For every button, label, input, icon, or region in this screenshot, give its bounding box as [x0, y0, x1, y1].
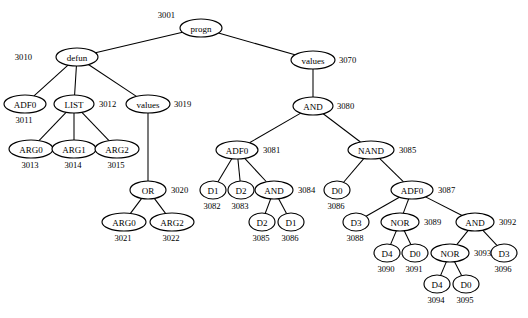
node-label: OR — [142, 186, 155, 196]
node-label: D1 — [286, 218, 297, 228]
tree-node-3091[interactable]: D03091 — [402, 244, 428, 274]
node-id-label: 3086 — [327, 201, 345, 211]
node-label: progn — [191, 24, 212, 34]
node-id-label: 3022 — [162, 233, 179, 243]
node-label: AND — [303, 102, 323, 112]
node-id-label: 3092 — [499, 217, 516, 227]
tree-node-3011[interactable]: ADF03011 — [4, 95, 46, 125]
tree-edge — [404, 231, 411, 245]
tree-node-3084[interactable]: AND3084 — [255, 181, 316, 199]
tree-edge — [34, 65, 68, 96]
node-id-label: 3087 — [438, 185, 456, 195]
node-id-label: 3081 — [263, 145, 280, 155]
tree-edge — [426, 197, 463, 216]
node-label: D1 — [208, 186, 219, 196]
node-label: D4 — [432, 280, 443, 290]
tree-edge — [455, 262, 462, 276]
node-label: NOR — [390, 218, 409, 228]
tree-node-3021[interactable]: ARG03021 — [102, 213, 146, 243]
node-id-label: 3096 — [494, 264, 512, 274]
node-id-label: 3001 — [158, 10, 175, 20]
tree-edge — [154, 198, 165, 213]
node-label: NAND — [358, 146, 384, 156]
node-id-label: 3084 — [298, 185, 316, 195]
tree-node-3001[interactable]: progn3001 — [158, 10, 222, 37]
node-id-label: 3011 — [16, 115, 33, 125]
tree-edge — [403, 199, 408, 213]
node-id-label: 3014 — [64, 160, 82, 170]
node-label: D4 — [382, 249, 393, 259]
tree-node-3013[interactable]: ARG03013 — [9, 140, 53, 170]
tree-node-3014[interactable]: ARG13014 — [52, 140, 96, 170]
tree-edge — [39, 112, 66, 140]
tree-node-3012[interactable]: LIST3012 — [54, 95, 116, 113]
tree-node-3086[interactable]: D03086 — [324, 181, 350, 211]
node-id-label: 3088 — [346, 233, 363, 243]
node-label: NOR — [440, 249, 459, 259]
node-id-label: 3070 — [339, 55, 356, 65]
tree-edge — [380, 158, 404, 181]
node-id-label: 3093 — [474, 248, 491, 258]
node-label: ARG2 — [160, 218, 184, 228]
parse-tree-diagram: progn3001defun3010values3070ADF03011LIST… — [0, 0, 528, 318]
tree-edge — [82, 112, 109, 140]
tree-node-3022[interactable]: ARG23022 — [150, 213, 194, 243]
tree-node-3019[interactable]: values3019 — [126, 95, 191, 113]
node-label: ARG1 — [62, 145, 86, 155]
tree-node-3095[interactable]: D03095 — [453, 275, 479, 305]
tree-edge — [245, 158, 267, 181]
node-label: values — [137, 100, 160, 110]
tree-node-3086b[interactable]: D13086 — [278, 213, 304, 243]
tree-node-3096[interactable]: D33096 — [491, 244, 517, 274]
tree-node-3083[interactable]: D23083 — [228, 181, 254, 211]
node-label: D0 — [410, 249, 421, 259]
node-label: ARG2 — [105, 145, 129, 155]
tree-node-3093[interactable]: NOR3093 — [431, 244, 491, 262]
node-id-label: 3086 — [281, 233, 299, 243]
tree-node-3085b[interactable]: D23085 — [249, 213, 275, 243]
node-label: LIST — [65, 100, 85, 110]
tree-edge — [457, 230, 468, 244]
node-id-label: 3010 — [15, 52, 32, 62]
tree-edge — [218, 33, 294, 55]
tree-edge — [344, 159, 364, 183]
tree-node-3020[interactable]: OR3020 — [130, 181, 188, 199]
tree-edge — [265, 199, 270, 213]
tree-node-3092[interactable]: AND3092 — [456, 213, 516, 231]
tree-node-3090[interactable]: D43090 — [374, 244, 400, 274]
tree-edge — [483, 230, 497, 245]
tree-edge — [75, 66, 77, 95]
tree-node-3070[interactable]: values3070 — [291, 51, 356, 69]
tree-edge — [391, 231, 397, 245]
tree-node-3010[interactable]: defun3010 — [15, 48, 98, 66]
tree-node-3080[interactable]: AND3080 — [293, 97, 354, 115]
node-layer: progn3001defun3010values3070ADF03011LIST… — [4, 10, 517, 305]
node-label: D2 — [236, 186, 247, 196]
node-id-label: 3083 — [231, 201, 248, 211]
node-id-label: 3090 — [377, 264, 394, 274]
node-id-label: 3085 — [399, 145, 416, 155]
node-id-label: 3012 — [99, 99, 116, 109]
tree-node-3082[interactable]: D13082 — [200, 181, 226, 211]
node-label: D2 — [257, 218, 268, 228]
node-id-label: 3021 — [114, 233, 131, 243]
node-id-label: 3015 — [107, 160, 124, 170]
node-label: D0 — [332, 186, 343, 196]
tree-edge — [249, 113, 300, 143]
node-label: AND — [465, 218, 485, 228]
node-label: D3 — [499, 249, 510, 259]
tree-node-3085[interactable]: NAND3085 — [348, 141, 416, 159]
tree-node-3081[interactable]: ADF03081 — [216, 141, 280, 159]
node-label: ADF0 — [14, 100, 37, 110]
tree-edge — [88, 65, 136, 97]
node-id-label: 3091 — [405, 264, 422, 274]
tree-node-3094[interactable]: D43094 — [424, 275, 450, 305]
tree-node-3087[interactable]: ADF03087 — [391, 181, 456, 199]
tree-node-3088[interactable]: D33088 — [343, 213, 369, 243]
tree-node-3089[interactable]: NOR3089 — [381, 213, 441, 231]
tree-node-3015[interactable]: ARG23015 — [95, 140, 139, 170]
node-label: ADF0 — [226, 146, 249, 156]
node-label: AND — [264, 186, 284, 196]
node-label: D3 — [351, 218, 362, 228]
tree-edge — [323, 114, 360, 142]
